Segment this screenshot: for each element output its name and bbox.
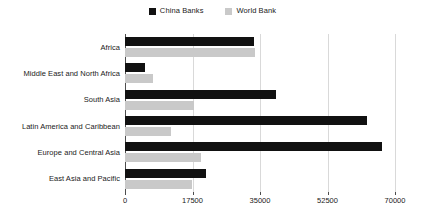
- x-axis-tick-mark: [260, 192, 261, 195]
- y-axis-label: East Asia and Pacific: [0, 166, 120, 192]
- legend-item-china-banks[interactable]: China Banks: [149, 7, 204, 15]
- bar-world-bank[interactable]: [125, 101, 194, 110]
- bar-world-bank[interactable]: [125, 180, 192, 189]
- bar-china-banks[interactable]: [125, 63, 145, 72]
- legend-label-world-bank: World Bank: [236, 7, 276, 15]
- bar-china-banks[interactable]: [125, 37, 254, 46]
- chart-legend: China Banks World Bank: [0, 4, 425, 18]
- bar-group: [125, 166, 395, 192]
- legend-swatch-icon-china-banks: [149, 8, 156, 15]
- x-axis-tick-mark: [395, 192, 396, 195]
- gridline: [395, 34, 396, 192]
- x-axis-tick-label: 52500: [317, 196, 338, 206]
- x-axis-tick-labels: 017500350005250070000: [0, 196, 425, 208]
- plot-area: [125, 34, 395, 192]
- bar-china-banks[interactable]: [125, 116, 367, 125]
- legend-item-world-bank[interactable]: World Bank: [225, 7, 276, 15]
- legend-label-china-banks: China Banks: [160, 7, 204, 15]
- bar-china-banks[interactable]: [125, 90, 276, 99]
- bar-world-bank[interactable]: [125, 48, 255, 57]
- x-axis-tick-label: 17500: [182, 196, 203, 206]
- x-axis-tick-label: 35000: [250, 196, 271, 206]
- legend-swatch-icon-world-bank: [225, 8, 232, 15]
- y-axis-category-labels: AfricaMiddle East and North AfricaSouth …: [0, 34, 120, 192]
- bar-groups: [125, 34, 395, 192]
- x-axis-tick-label: 0: [123, 196, 127, 206]
- bar-group: [125, 139, 395, 165]
- bar-world-bank[interactable]: [125, 127, 171, 136]
- bar-china-banks[interactable]: [125, 142, 382, 151]
- bar-group: [125, 34, 395, 60]
- x-axis-tick-mark: [328, 192, 329, 195]
- bar-group: [125, 60, 395, 86]
- bar-group: [125, 113, 395, 139]
- bar-world-bank[interactable]: [125, 153, 201, 162]
- y-axis-label: Latin America and Caribbean: [0, 113, 120, 139]
- y-axis-label: South Asia: [0, 87, 120, 113]
- y-axis-label: Europe and Central Asia: [0, 139, 120, 165]
- bar-chart: China Banks World Bank AfricaMiddle East…: [0, 0, 425, 218]
- x-axis-tick-mark: [193, 192, 194, 195]
- bar-china-banks[interactable]: [125, 169, 206, 178]
- y-axis-label: Africa: [0, 34, 120, 60]
- y-axis-label: Middle East and North Africa: [0, 60, 120, 86]
- bar-world-bank[interactable]: [125, 74, 153, 83]
- bar-group: [125, 87, 395, 113]
- x-axis-tick-mark: [125, 192, 126, 195]
- x-axis-tick-label: 70000: [385, 196, 406, 206]
